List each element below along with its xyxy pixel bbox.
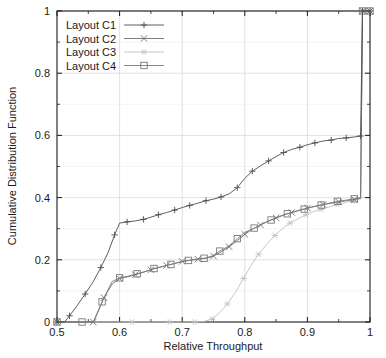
x-tick-label: 0.7 xyxy=(175,326,190,338)
legend-label-layout-c4: Layout C4 xyxy=(66,60,116,72)
y-tick-label: 0.2 xyxy=(35,254,50,266)
chart-legend: Layout C1Layout C2Layout C3Layout C4 xyxy=(66,19,164,72)
x-tick-label: 0.9 xyxy=(300,326,315,338)
y-tick-label: 0.8 xyxy=(35,67,50,79)
legend-label-layout-c1: Layout C1 xyxy=(66,19,116,31)
y-tick-label: 0.4 xyxy=(35,192,50,204)
legend-label-layout-c2: Layout C2 xyxy=(66,33,116,45)
x-axis-title: Relative Throughput xyxy=(164,340,263,352)
chart-figure: 00.20.40.60.810.50.60.70.80.91 Layout C1… xyxy=(0,0,386,358)
legend-label-layout-c3: Layout C3 xyxy=(66,46,116,58)
cdf-line-chart: 00.20.40.60.810.50.60.70.80.91 Layout C1… xyxy=(0,0,386,358)
y-tick-label: 1 xyxy=(44,5,50,17)
y-tick-label: 0.6 xyxy=(35,129,50,141)
x-tick-label: 0.8 xyxy=(237,326,252,338)
x-tick-label: 0.5 xyxy=(49,326,64,338)
x-tick-label: 1 xyxy=(367,326,373,338)
y-axis-title: Cumulative Distribution Function xyxy=(6,87,18,245)
x-tick-label: 0.6 xyxy=(112,326,127,338)
